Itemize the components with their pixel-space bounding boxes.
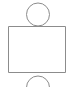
body-rectangle-shape [9,27,66,73]
shape-figure-svg [0,0,73,87]
top-circle-shape [27,3,50,26]
diagram-canvas [0,0,73,87]
bottom-circle-shape [27,76,50,87]
